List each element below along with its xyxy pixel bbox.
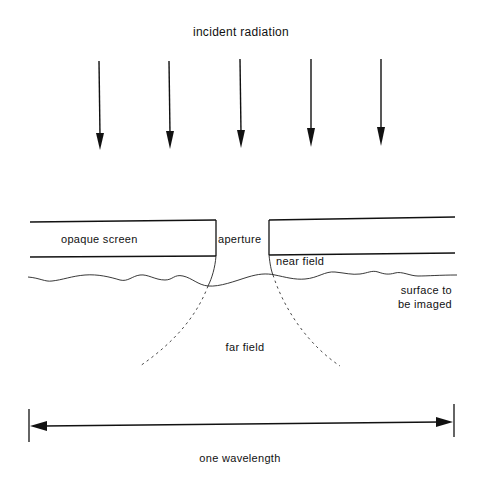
near-field-imaging-diagram: incident radiation opaque screen apertur… xyxy=(0,0,478,480)
surface-line xyxy=(28,271,457,286)
arrow-1 xyxy=(96,61,104,150)
arrow-2 xyxy=(166,61,174,149)
title-incident-radiation: incident radiation xyxy=(193,26,289,39)
label-surface-to: surface to xyxy=(401,284,452,297)
label-one-wavelength: one wavelength xyxy=(199,452,280,465)
arrow-4 xyxy=(307,59,315,147)
incident-arrows xyxy=(96,59,385,150)
arrow-5 xyxy=(377,59,385,146)
near-field-curves xyxy=(208,255,273,286)
label-far-field: far field xyxy=(226,341,265,354)
label-near-field: near field xyxy=(276,255,324,268)
label-be-imaged: be imaged xyxy=(398,298,452,311)
arrow-3 xyxy=(237,59,245,148)
opaque-screen-right xyxy=(269,217,455,255)
wavelength-dimension xyxy=(29,404,454,442)
label-aperture: aperture xyxy=(218,233,261,246)
label-opaque-screen: opaque screen xyxy=(61,233,138,246)
